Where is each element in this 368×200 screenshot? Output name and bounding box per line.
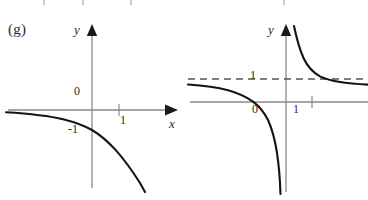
y-axis-label-g: y — [74, 22, 80, 38]
curve-h-right-branch — [294, 26, 368, 85]
y-axis-label-h: y — [268, 22, 274, 38]
x-axis-label-g: x — [169, 116, 175, 132]
asymptote-label-one-h: 1 — [250, 68, 256, 83]
panel-g-plot — [0, 0, 184, 200]
x-tick-label-one-h: 1 — [293, 102, 299, 117]
y-axis-g — [87, 24, 97, 188]
part-label-g: (g) — [8, 21, 26, 38]
x-tick-label-one-g: 1 — [120, 113, 126, 128]
curve-h-left-branch — [188, 85, 281, 195]
panel-g: (g) y x 0 1 -1 — [0, 0, 184, 200]
figure-root: (g) y x 0 1 -1 (h) y 1 — [0, 0, 368, 200]
panel-h-plot — [184, 0, 368, 200]
y-axis-h — [281, 24, 291, 192]
panel-h: (h) y 1 0 1 — [184, 0, 368, 200]
origin-label-h: 0 — [252, 102, 258, 117]
origin-label-g: 0 — [74, 84, 80, 99]
y-tick-label-negative-one-g: -1 — [68, 122, 78, 137]
